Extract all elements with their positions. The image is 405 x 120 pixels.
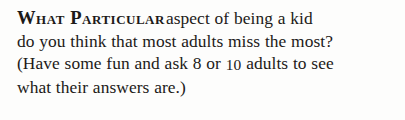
passage-line-3-text-after-number: adults to see [241, 53, 333, 73]
passage-line-3-number: 10 [226, 56, 242, 73]
question-passage: What Particularaspect of being a kid do … [17, 7, 391, 99]
passage-line-1-text: aspect of being a kid [166, 8, 313, 28]
passage-line-1: What Particularaspect of being a kid [17, 7, 391, 30]
passage-line-3-text-before-number: (Have some fun and ask 8 or [17, 53, 226, 73]
passage-line-3: (Have some fun and ask 8 or 10 adults to… [17, 52, 391, 76]
passage-lead-in: What Particular [17, 7, 166, 28]
passage-line-4: what their answers are.) [17, 76, 391, 99]
passage-line-2: do you think that most adults miss the m… [17, 30, 391, 53]
passage-line-4-text: what their answers are.) [17, 77, 186, 97]
passage-line-2-text: do you think that most adults miss the m… [17, 31, 333, 51]
document-page: What Particularaspect of being a kid do … [0, 0, 405, 120]
